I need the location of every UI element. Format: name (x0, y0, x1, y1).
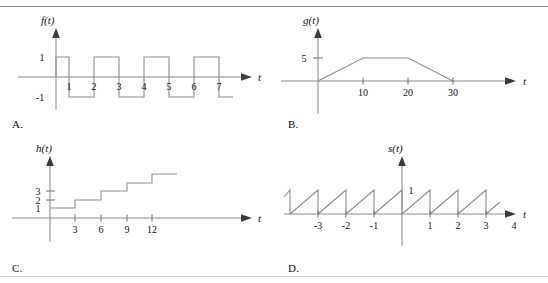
panel-c-x-tick-3: 3 (73, 224, 78, 235)
panel-b-x-axis-label: t (523, 75, 527, 87)
panel-a-y-label-neg1: -1 (36, 92, 44, 103)
panel-a-y-axis-arrowhead (52, 28, 60, 38)
panel-a: f(t) t 1 -1 1 2 3 4 5 6 7 A. (0, 14, 278, 120)
panel-d-x-tick-2: 2 (456, 220, 461, 231)
panel-a-x-tick-2: 2 (92, 81, 97, 92)
panel-d-y-axis-arrowhead (398, 156, 406, 166)
panel-c-letter: C. (12, 262, 23, 274)
panel-a-letter: A. (12, 118, 23, 130)
panel-b-x-tick-20: 20 (403, 87, 413, 98)
panel-d-x-tick-neg1: -1 (370, 220, 378, 231)
panel-a-x-tick-5: 5 (167, 81, 172, 92)
panel-b-y-axis-arrowhead (314, 28, 322, 38)
panel-b-function-label: g(t) (303, 14, 319, 27)
figure-root: f(t) t 1 -1 1 2 3 4 5 6 7 A. (0, 0, 548, 283)
panel-d-tooth-3 (346, 190, 374, 214)
panel-c-y-axis-arrowhead (46, 156, 54, 166)
panel-d-tooth-4 (374, 190, 402, 214)
panel-d-y-tick-label-1: 1 (409, 185, 414, 196)
panel-a-x-tick-1: 1 (67, 81, 72, 92)
panel-d: s(t) t 1 -3 -2 -1 1 2 3 4 D. (278, 140, 548, 250)
panel-d-tooth-trailing (486, 202, 500, 214)
panel-d-x-tick-3: 3 (484, 220, 489, 231)
panel-d-x-axis-arrowhead (505, 210, 516, 218)
panel-d-tooth-7 (458, 190, 486, 214)
panel-b-x-axis-arrowhead (505, 77, 516, 85)
panel-d-tooth-2 (318, 190, 346, 214)
panel-b-y-tick-label-5: 5 (302, 53, 307, 64)
panel-d-x-tick-4: 4 (512, 220, 517, 231)
panel-a-x-tick-7: 7 (217, 81, 222, 92)
panel-b-x-tick-10: 10 (358, 87, 368, 98)
panel-b-letter: B. (288, 118, 299, 130)
panel-d-x-tick-1: 1 (428, 220, 433, 231)
panel-d-tooth-1 (290, 190, 318, 214)
panel-c-x-tick-9: 9 (125, 224, 130, 235)
panel-c-x-axis-label: t (258, 212, 262, 224)
panel-c-plot: h(t) t 1 2 3 3 6 9 12 (0, 140, 278, 250)
panel-a-x-axis-arrowhead (241, 73, 252, 81)
panel-a-function-label: f(t) (41, 14, 55, 27)
panel-c-x-tick-12: 12 (147, 224, 157, 235)
panel-d-tooth-partial (284, 190, 290, 214)
top-divider-rule (0, 6, 548, 7)
panel-d-letter: D. (288, 262, 299, 274)
panel-b-trapezoid-pulse (318, 58, 453, 81)
panel-d-x-tick-neg2: -2 (342, 220, 350, 231)
panel-c-x-axis-arrowhead (241, 214, 252, 222)
panel-a-x-tick-4: 4 (142, 81, 147, 92)
panel-b: g(t) t 5 10 20 30 B. (278, 14, 548, 120)
panel-d-function-label: s(t) (388, 142, 403, 155)
panel-d-plot: s(t) t 1 -3 -2 -1 1 2 3 4 (278, 140, 548, 250)
bottom-divider-rule (0, 276, 548, 277)
panel-c-x-tick-6: 6 (99, 224, 104, 235)
panel-c-staircase (50, 174, 177, 208)
panel-a-x-tick-6: 6 (192, 81, 197, 92)
panel-c-y-tick-label-3: 3 (36, 186, 41, 197)
panel-d-x-axis-label: t (523, 208, 527, 220)
panel-a-x-tick-3: 3 (117, 81, 122, 92)
panel-d-x-tick-neg3: -3 (314, 220, 322, 231)
panel-d-tooth-6 (430, 190, 458, 214)
panel-c: h(t) t 1 2 3 3 6 9 12 C. (0, 140, 278, 250)
panel-c-function-label: h(t) (36, 142, 52, 155)
panel-b-plot: g(t) t 5 10 20 30 (278, 14, 548, 120)
panel-d-sawtooth (284, 190, 500, 214)
panel-a-plot: f(t) t 1 -1 1 2 3 4 5 6 7 (0, 14, 278, 120)
panel-a-y-label-1: 1 (40, 52, 45, 63)
panel-d-tooth-5 (402, 190, 430, 214)
panel-b-x-tick-30: 30 (448, 87, 458, 98)
panel-a-x-axis-label: t (258, 71, 262, 83)
